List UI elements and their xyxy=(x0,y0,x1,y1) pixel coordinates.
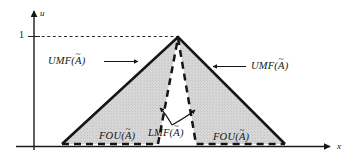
tilde-accent-icon: ~ xyxy=(174,122,179,131)
umf-left-label: UMF(~A) xyxy=(48,56,85,67)
lmf-paren-close: ) xyxy=(180,127,184,138)
umf-right-label: UMF(~A) xyxy=(251,61,288,72)
lmf-label: LMF(~A) xyxy=(148,128,184,139)
lmf-arg-wrap: ~A xyxy=(173,128,180,139)
tilde-accent-icon: ~ xyxy=(126,125,131,134)
umf-left-paren-close: ) xyxy=(82,55,86,66)
y-axis-tick-label-one: 1 xyxy=(19,30,24,40)
fou-left-label: FOU(~A) xyxy=(99,131,135,142)
fou-left-paren-close: ) xyxy=(132,130,136,141)
y-axis-label: u xyxy=(40,9,45,18)
umf-left-arg-wrap: ~A xyxy=(75,56,82,67)
tilde-accent-icon: ~ xyxy=(240,126,245,135)
fou-right-label: FOU(~A) xyxy=(213,132,249,143)
fou-right-paren-close: ) xyxy=(246,131,250,142)
fou-right-acronym: FOU xyxy=(213,131,235,142)
umf-right-paren-close: ) xyxy=(285,60,289,71)
fou-right-arg-wrap: ~A xyxy=(239,132,246,143)
diagram-svg xyxy=(0,0,356,166)
fou-left-acronym: FOU xyxy=(99,130,121,141)
x-axis-label: x xyxy=(337,142,341,151)
umf-left-acronym: UMF xyxy=(48,55,71,66)
umf-right-arg-wrap: ~A xyxy=(278,61,285,72)
fou-left-arg-wrap: ~A xyxy=(125,131,132,142)
tilde-accent-icon: ~ xyxy=(279,55,284,64)
tilde-accent-icon: ~ xyxy=(76,50,81,59)
lmf-acronym: LMF xyxy=(148,127,170,138)
umf-right-acronym: UMF xyxy=(251,60,274,71)
figure-canvas: u x 1 UMF(~A) UMF(~A) LMF(~A) FOU(~A) FO… xyxy=(0,0,356,166)
